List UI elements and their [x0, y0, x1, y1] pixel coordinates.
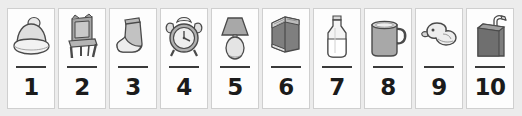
- card-number: 9: [416, 70, 462, 108]
- card-number: 2: [59, 70, 105, 108]
- writing-rule: [424, 66, 454, 68]
- number-card[interactable]: 7: [313, 8, 361, 109]
- number-card[interactable]: 8: [364, 8, 412, 109]
- table-lamp-icon: [212, 9, 258, 65]
- card-number: 4: [161, 70, 207, 108]
- sock-icon: [110, 9, 156, 65]
- writing-rule: [373, 66, 403, 68]
- writing-rule: [169, 66, 199, 68]
- card-number: 1: [8, 70, 54, 108]
- book-icon: [263, 9, 309, 65]
- writing-rule: [16, 66, 46, 68]
- number-card[interactable]: 3: [109, 8, 157, 109]
- juice-box-icon: [467, 9, 513, 65]
- writing-rule: [67, 66, 97, 68]
- card-number: 7: [314, 70, 360, 108]
- writing-rule: [220, 66, 250, 68]
- number-card[interactable]: 9: [415, 8, 463, 109]
- number-card[interactable]: 4: [160, 8, 208, 109]
- beanie-hat-icon: [8, 9, 54, 65]
- card-number: 8: [365, 70, 411, 108]
- card-number: 10: [467, 70, 513, 108]
- writing-rule: [475, 66, 505, 68]
- writing-rule: [118, 66, 148, 68]
- number-card[interactable]: 2: [58, 8, 106, 109]
- card-number: 6: [263, 70, 309, 108]
- number-card[interactable]: 10: [466, 8, 514, 109]
- rubber-duck-icon: [416, 9, 462, 65]
- card-number: 5: [212, 70, 258, 108]
- milk-bottle-icon: [314, 9, 360, 65]
- chair-icon: [59, 9, 105, 65]
- alarm-clock-icon: [161, 9, 207, 65]
- number-card-strip: 1 2 3: [0, 0, 522, 116]
- number-card[interactable]: 6: [262, 8, 310, 109]
- mug-icon: [365, 9, 411, 65]
- number-card[interactable]: 5: [211, 8, 259, 109]
- writing-rule: [271, 66, 301, 68]
- number-card[interactable]: 1: [7, 8, 55, 109]
- writing-rule: [322, 66, 352, 68]
- card-number: 3: [110, 70, 156, 108]
